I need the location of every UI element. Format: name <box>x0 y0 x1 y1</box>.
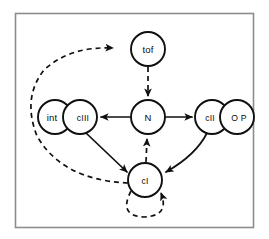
diagram-figure: tof int cIII N cII O P <box>0 0 269 239</box>
edge-cii-to-ci <box>166 133 207 172</box>
node-ci-label: cI <box>141 176 148 186</box>
node-ciii[interactable]: cIII <box>63 100 97 134</box>
regulatory-network-diagram: tof int cIII N cII O P <box>0 0 269 239</box>
node-ci[interactable]: cI <box>128 163 162 197</box>
node-n[interactable]: N <box>131 100 165 134</box>
node-tof[interactable]: tof <box>131 32 165 66</box>
node-op[interactable]: O P <box>220 100 254 134</box>
node-op-label: O P <box>231 113 246 123</box>
node-cii-label: cII <box>205 113 215 123</box>
node-int-label: int <box>47 112 58 123</box>
node-n-label: N <box>144 112 151 123</box>
node-tof-label: tof <box>142 44 153 55</box>
node-ciii-label: cIII <box>77 113 89 123</box>
edge-ciii-to-ci <box>86 133 127 172</box>
node-layer: tof int cIII N cII O P <box>38 32 254 197</box>
edge-ci-to-n <box>146 139 147 162</box>
